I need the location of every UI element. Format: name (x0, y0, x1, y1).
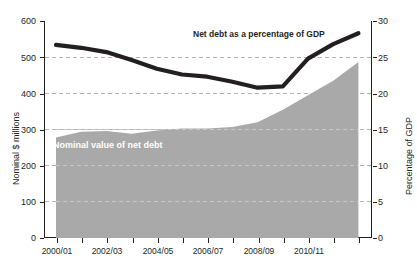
right-tickmark-5 (373, 202, 377, 203)
x-tickmark-9 (284, 238, 285, 243)
right-tick-10: 10 (378, 161, 402, 171)
right-tickmark-10 (373, 166, 377, 167)
x-tick-label-2006-07: 2006/07 (180, 246, 236, 256)
x-tick-label-2010-11: 2010/11 (281, 246, 337, 256)
left-tick-600: 600 (12, 16, 36, 26)
left-tick-500: 500 (12, 53, 36, 63)
x-tickmark-1 (82, 238, 83, 243)
line-series-label: Net debt as a percentage of GDP (193, 29, 325, 39)
x-tickmark-3 (133, 238, 134, 243)
right-tickmark-0 (373, 238, 377, 239)
right-tickmark-20 (373, 94, 377, 95)
plot-svg (43, 21, 373, 238)
right-tick-25: 25 (378, 53, 402, 63)
area-series-label: Nominal value of net debt (53, 140, 163, 150)
chart-figure: Nominal $ millions Percentage of GDP 0 1… (0, 0, 417, 263)
left-tick-0: 0 (12, 233, 36, 243)
x-tick-label-2008-09: 2008/09 (231, 246, 287, 256)
left-tick-300: 300 (12, 125, 36, 135)
x-tick-label-2002-03: 2002/03 (79, 246, 135, 256)
left-tick-200: 200 (12, 161, 36, 171)
left-tick-400: 400 (12, 89, 36, 99)
x-tickmark-5 (183, 238, 184, 243)
cropped-title (6, 0, 411, 4)
x-tickmark-11 (334, 238, 335, 243)
left-axis-title: Nominal $ millions (11, 112, 21, 185)
right-tick-20: 20 (378, 89, 402, 99)
left-tickmark-0 (40, 238, 44, 239)
right-tickmark-15 (373, 130, 377, 131)
x-tickmark-4 (158, 238, 159, 243)
x-tick-label-2004-05: 2004/05 (130, 246, 186, 256)
right-tick-15: 15 (378, 125, 402, 135)
left-tick-100: 100 (12, 197, 36, 207)
x-tickmark-2 (107, 238, 108, 243)
right-axis-title: Percentage of GDP (404, 117, 414, 195)
right-tickmark-30 (373, 21, 377, 22)
line-series-net-debt-pct-gdp (56, 33, 358, 87)
right-tick-5: 5 (378, 197, 402, 207)
x-tickmark-7 (233, 238, 234, 243)
x-tickmark-6 (208, 238, 209, 243)
plot-area: Net debt as a percentage of GDP Nominal … (44, 21, 372, 238)
x-tick-label-2000-01: 2000/01 (29, 246, 85, 256)
right-tick-30: 30 (378, 16, 402, 26)
x-tickmark-12 (359, 238, 360, 243)
x-tickmark-0 (57, 238, 58, 243)
x-tickmark-8 (259, 238, 260, 243)
right-tick-0: 0 (378, 233, 402, 243)
right-tickmark-25 (373, 57, 377, 58)
x-tickmark-10 (309, 238, 310, 243)
